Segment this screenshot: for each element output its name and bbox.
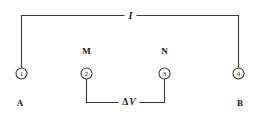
electrode-label-3: 3: [163, 71, 167, 78]
current-label: I: [129, 11, 133, 21]
node-label-m: M: [82, 47, 91, 56]
electrode-label-2: 2: [85, 71, 89, 78]
electrode-label-1: 1: [20, 71, 24, 78]
terminal-label-a: A: [17, 99, 24, 108]
voltage-symbol: V: [128, 97, 135, 107]
terminal-label-b: B: [237, 99, 243, 108]
node-label-n: N: [161, 47, 168, 56]
circuit-diagram: 1 2 3 4 I M N A B ΔV: [0, 0, 259, 125]
voltage-label: ΔV: [122, 98, 135, 108]
electrode-label-4: 4: [237, 71, 241, 78]
